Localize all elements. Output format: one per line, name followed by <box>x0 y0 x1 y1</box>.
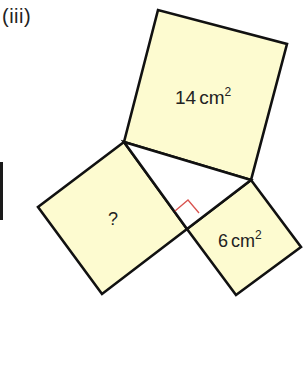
pythagoras-diagram: 14cm2 ? 6cm2 <box>0 0 304 373</box>
unknown-square-label: ? <box>108 209 118 229</box>
hypotenuse-square-label: 14cm2 <box>175 85 231 108</box>
